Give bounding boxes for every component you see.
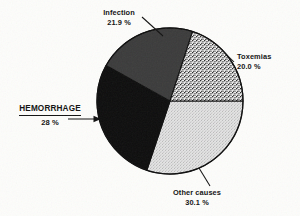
slice-label-infection: Infection 21.9 % <box>88 8 150 28</box>
slice-label-toxemias-value: 20.0 % <box>237 62 295 72</box>
slice-label-other-causes-value: 30.1 % <box>162 198 232 208</box>
slice-label-other-causes: Other causes 30.1 % <box>162 188 232 208</box>
slice-label-other-causes-name: Other causes <box>173 188 221 197</box>
slice-label-hemorrhage: HEMORRHAGE 28 % <box>8 104 92 128</box>
slice-label-toxemias-name: Toxemias <box>237 52 271 61</box>
slice-label-hemorrhage-name: HEMORRHAGE <box>19 104 81 116</box>
leader-line-other-causes <box>199 168 210 186</box>
slice-label-infection-name: Infection <box>103 8 135 17</box>
slice-label-infection-value: 21.9 % <box>88 18 150 28</box>
pie-chart-figure: Infection 21.9 % Toxemias 20.0 % HEMORRH… <box>0 0 300 216</box>
slice-label-hemorrhage-value: 28 % <box>8 118 92 128</box>
slice-label-toxemias: Toxemias 20.0 % <box>237 52 295 72</box>
